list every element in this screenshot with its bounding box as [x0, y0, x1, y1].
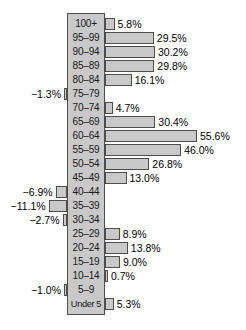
- age-group-label: 30–34: [67, 213, 105, 227]
- bar: [49, 200, 67, 212]
- chart-row: 85–8929.8%: [0, 59, 246, 73]
- chart-row: 5–9−1.0%: [0, 283, 246, 297]
- bar: [105, 116, 155, 128]
- bar: [105, 172, 127, 184]
- chart-row: 25–298.9%: [0, 227, 246, 241]
- age-group-label: 10–14: [67, 269, 105, 283]
- chart-row: 100+5.8%: [0, 17, 246, 31]
- age-group-label: 45–49: [67, 171, 105, 185]
- value-label: −11.1%: [11, 199, 46, 213]
- value-label: 5.3%: [117, 297, 141, 311]
- chart-row: 40–44−6.9%: [0, 185, 246, 199]
- bar: [105, 242, 128, 254]
- value-label: 13.8%: [131, 241, 161, 255]
- chart-row: 75–79−1.3%: [0, 87, 246, 101]
- value-label: 5.8%: [118, 17, 142, 31]
- bar: [105, 46, 155, 58]
- chart-row: 45–4913.0%: [0, 171, 246, 185]
- age-group-label: 35–39: [67, 199, 105, 213]
- bar: [105, 130, 197, 142]
- value-label: 29.5%: [157, 31, 187, 45]
- value-label: −1.3%: [31, 87, 61, 101]
- bar: [105, 74, 132, 86]
- age-group-label: 5–9: [67, 283, 105, 297]
- age-group-label: 40–44: [67, 185, 105, 199]
- age-group-label: 95–99: [67, 31, 105, 45]
- chart-row: 15–199.0%: [0, 255, 246, 269]
- value-label: −2.7%: [29, 213, 59, 227]
- chart-row: 20–2413.8%: [0, 241, 246, 255]
- value-label: 8.9%: [123, 227, 147, 241]
- bar: [56, 186, 67, 198]
- bar: [105, 60, 154, 72]
- value-label: 13.0%: [130, 171, 160, 185]
- age-group-label: 50–54: [67, 157, 105, 171]
- chart-row: 60–6455.6%: [0, 129, 246, 143]
- value-label: 29.8%: [157, 59, 187, 73]
- age-group-label: 80–84: [67, 73, 105, 87]
- value-label: 30.2%: [158, 45, 188, 59]
- bar: [105, 102, 113, 114]
- value-label: 30.4%: [158, 115, 188, 129]
- value-label: 0.7%: [111, 269, 135, 283]
- value-label: 55.6%: [200, 129, 230, 143]
- bar: [105, 32, 154, 44]
- value-label: −1.0%: [31, 283, 61, 297]
- value-label: 4.7%: [116, 101, 140, 115]
- bar: [105, 298, 114, 310]
- age-group-label: 20–24: [67, 241, 105, 255]
- age-group-label: 100+: [67, 17, 105, 31]
- population-change-pyramid-chart: 100+5.8%95–9929.5%90–9430.2%85–8929.8%80…: [0, 0, 246, 330]
- chart-row: 55–5946.0%: [0, 143, 246, 157]
- chart-row: 70–744.7%: [0, 101, 246, 115]
- chart-row: Under 55.3%: [0, 297, 246, 311]
- chart-row: 35–39−11.1%: [0, 199, 246, 213]
- chart-row: 65–6930.4%: [0, 115, 246, 129]
- age-group-label: 55–59: [67, 143, 105, 157]
- age-group-label: 15–19: [67, 255, 105, 269]
- value-label: 9.0%: [123, 255, 147, 269]
- age-group-label: 70–74: [67, 101, 105, 115]
- value-label: −6.9%: [23, 185, 53, 199]
- chart-row: 10–140.7%: [0, 269, 246, 283]
- age-group-label: 60–64: [67, 129, 105, 143]
- age-group-label: 65–69: [67, 115, 105, 129]
- chart-row: 90–9430.2%: [0, 45, 246, 59]
- value-label: 46.0%: [184, 143, 214, 157]
- age-group-label: Under 5: [67, 297, 105, 311]
- chart-row: 50–5426.8%: [0, 157, 246, 171]
- chart-row: 95–9929.5%: [0, 31, 246, 45]
- chart-row: 30–34−2.7%: [0, 213, 246, 227]
- age-group-label: 75–79: [67, 87, 105, 101]
- age-group-label: 25–29: [67, 227, 105, 241]
- age-group-label: 90–94: [67, 45, 105, 59]
- chart-rows: 100+5.8%95–9929.5%90–9430.2%85–8929.8%80…: [0, 17, 246, 311]
- bar: [105, 270, 108, 282]
- bar: [105, 144, 181, 156]
- bar: [105, 158, 149, 170]
- bar: [105, 18, 115, 30]
- value-label: 16.1%: [135, 73, 165, 87]
- chart-row: 80–8416.1%: [0, 73, 246, 87]
- age-group-label: 85–89: [67, 59, 105, 73]
- bar: [105, 228, 120, 240]
- bar: [105, 256, 120, 268]
- value-label: 26.8%: [152, 157, 182, 171]
